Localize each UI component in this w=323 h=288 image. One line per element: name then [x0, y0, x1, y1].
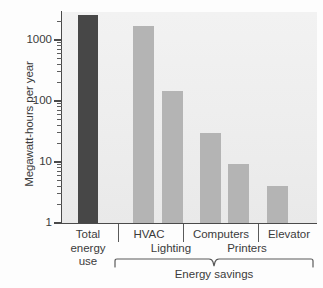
xlabel-total-line2: energy	[70, 242, 105, 254]
xlabel-total-line1: Total	[76, 228, 100, 240]
y-minor-tick-3	[57, 193, 62, 194]
y-minor-tick-8	[57, 167, 62, 168]
energy-bar-chart: Megawatt-hours per year 1000 100 10 1 To…	[0, 0, 323, 288]
y-tick-label-10: 10	[10, 156, 52, 167]
y-tick-label-1: 1	[10, 217, 52, 228]
bar-printers	[228, 164, 249, 223]
bar-lighting	[162, 91, 183, 223]
xlabel-elevator: Elevator	[258, 228, 320, 242]
y-minor-tick-700	[57, 49, 62, 50]
xlabel-computers: Computers	[184, 228, 258, 242]
y-minor-tick-800	[57, 45, 62, 46]
y-minor-tick-2000	[57, 21, 62, 22]
y-minor-tick-7	[57, 171, 62, 172]
y-major-tick-1000	[54, 39, 62, 40]
xlabel-total-energy-use: Total energy use	[58, 228, 118, 269]
y-minor-tick-40	[57, 125, 62, 126]
y-tick-label-100: 100	[10, 95, 52, 106]
y-minor-tick-2	[57, 204, 62, 205]
y-minor-tick-80	[57, 106, 62, 107]
y-minor-tick-20	[57, 143, 62, 144]
energy-savings-label: Energy savings	[114, 268, 314, 280]
y-minor-tick-70	[57, 110, 62, 111]
y-axis-tick-labels: 1000 100 10 1	[0, 0, 52, 288]
y-minor-tick-600	[57, 53, 62, 54]
bar-computers	[200, 133, 221, 223]
y-minor-tick-4	[57, 186, 62, 187]
bar-hvac	[133, 26, 154, 223]
y-minor-tick-900	[57, 42, 62, 43]
xlabel-hvac: HVAC	[118, 228, 180, 242]
y-major-tick-100	[54, 100, 62, 101]
bar-total-energy-use	[78, 15, 98, 223]
y-major-tick-1	[54, 222, 62, 223]
y-minor-tick-5	[57, 180, 62, 181]
xlabel-printers: Printers	[210, 242, 284, 256]
xlabel-total-line3: use	[79, 255, 98, 267]
energy-savings-bracket	[114, 258, 314, 267]
y-minor-tick-400	[57, 64, 62, 65]
y-minor-tick-60	[57, 114, 62, 115]
y-tick-label-1000: 1000	[10, 34, 52, 45]
y-minor-tick-200	[57, 82, 62, 83]
y-minor-tick-30	[57, 132, 62, 133]
y-major-tick-10	[54, 161, 62, 162]
xlabel-lighting: Lighting	[140, 242, 202, 256]
y-minor-tick-500	[57, 58, 62, 59]
y-minor-tick-6	[57, 175, 62, 176]
y-minor-tick-300	[57, 71, 62, 72]
y-minor-tick-50	[57, 119, 62, 120]
bar-elevator	[267, 186, 288, 223]
y-minor-tick-90	[57, 103, 62, 104]
y-minor-tick-9	[57, 164, 62, 165]
